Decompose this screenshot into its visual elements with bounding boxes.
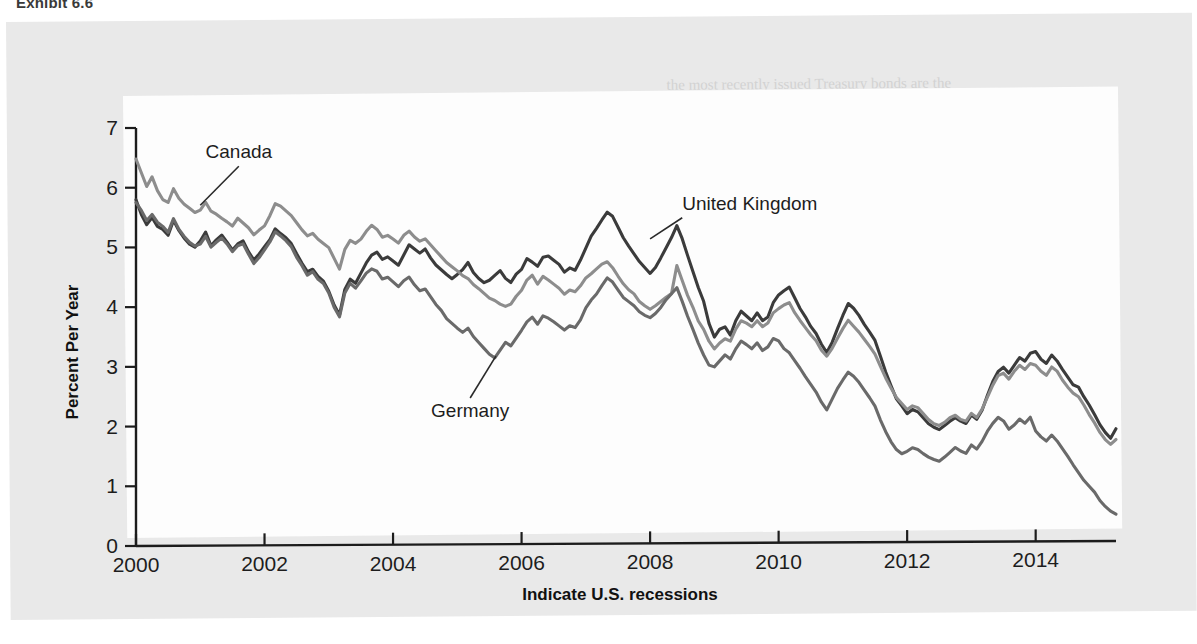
- chart-svg: 0123456720002002200420062008201020122014…: [0, 0, 1197, 644]
- chart-axes: 0123456720002002200420062008201020122014…: [63, 116, 1116, 604]
- y-axis-tick-label: 4: [106, 295, 118, 318]
- x-axis-tick-label: 2010: [755, 550, 802, 573]
- annotation-leader-line: [470, 356, 496, 398]
- x-axis-tick-label: 2008: [627, 550, 674, 573]
- x-axis-tick-label: 2014: [1012, 548, 1059, 571]
- y-axis-title: Percent Per Year: [63, 284, 82, 419]
- y-axis-tick-label: 3: [106, 355, 118, 378]
- x-axis-tick-label: 2000: [113, 553, 160, 576]
- series-annotation-label: Germany: [431, 400, 510, 421]
- y-axis-tick-label: 7: [106, 116, 118, 139]
- y-axis-tick-label: 6: [106, 176, 118, 199]
- series-line-united-kingdom: [136, 200, 1116, 439]
- x-axis-title: Indicate U.S. recessions: [522, 585, 718, 604]
- annotation-leader-line: [200, 166, 239, 205]
- chart-series: [136, 159, 1116, 514]
- y-axis-tick-label: 1: [106, 474, 118, 497]
- x-axis-tick-label: 2006: [498, 551, 545, 574]
- series-annotation-label: Canada: [206, 141, 273, 162]
- y-axis-tick-label: 2: [106, 415, 118, 438]
- figure-page: Exhibit 6.6 the most recently issued Tre…: [0, 0, 1197, 644]
- series-line-canada: [136, 159, 1116, 444]
- x-axis-tick-label: 2012: [884, 549, 931, 572]
- series-line-germany: [136, 203, 1116, 514]
- series-annotation-label: United Kingdom: [682, 193, 817, 214]
- x-axis-tick-label: 2004: [370, 552, 417, 575]
- x-axis-line: [136, 541, 1116, 546]
- x-axis-tick-label: 2002: [241, 552, 288, 575]
- line-chart: 0123456720002002200420062008201020122014…: [0, 0, 1197, 644]
- y-axis-tick-label: 5: [106, 235, 118, 258]
